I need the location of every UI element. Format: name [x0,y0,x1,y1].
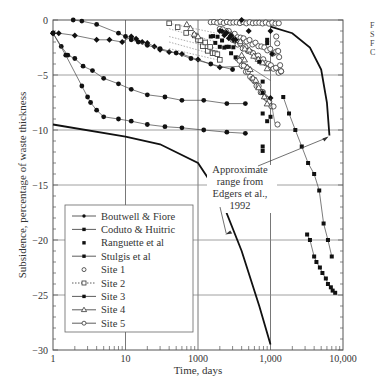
series-line [53,33,245,133]
filled-square-marker [213,41,217,45]
filled-diamond-marker [268,28,274,34]
filled-circle-marker [230,67,235,72]
filled-square-marker [261,80,265,84]
filled-circle-marker [94,22,99,27]
filled-square-marker [324,277,328,281]
legend-label: Site 5 [101,318,125,329]
filled-circle-marker [189,56,194,61]
x-tick-label: 1 [51,353,56,364]
filled-square-marker [312,172,316,176]
open-square-marker [167,21,172,26]
filled-circle-marker [180,98,185,103]
filled-circle-marker [79,84,84,89]
x-tick-label: 1000 [188,353,208,364]
filled-square-marker [218,45,222,49]
legend-label: Ranguette et al [101,237,164,248]
filled-circle-marker [129,119,134,124]
filled-circle-marker [72,56,77,61]
filled-square-marker [330,255,334,259]
x-tick-label: 1,000 [259,353,282,364]
series-line [307,235,335,293]
filled-diamond-marker [246,28,252,34]
filled-circle-marker [163,124,168,129]
caption-fragment: C [370,48,375,57]
filled-square-marker [269,115,273,119]
arrowhead-icon [322,137,328,142]
filled-circle-marker [79,19,84,24]
legend-marker-icon [82,295,85,298]
filled-diamond-marker [72,32,78,38]
y-tick-label: −20 [32,235,48,246]
x-tick-label: 10 [121,353,131,364]
legend-marker-icon [82,228,85,231]
legend-marker-icon [82,214,85,217]
open-circle-marker [274,34,279,39]
legend-marker-icon [82,268,86,272]
legend-label: Site 2 [101,278,125,289]
filled-circle-marker [88,100,93,105]
filled-square-marker [265,119,269,123]
filled-circle-marker [101,114,106,119]
filled-circle-marker [116,31,121,36]
filled-square-marker [227,45,231,49]
filled-square-marker [261,145,265,149]
filled-square-marker [317,189,321,193]
series-ranguette-et-al [305,233,337,295]
filled-circle-marker [180,125,185,130]
filled-square-marker [308,238,312,242]
open-square-marker [184,31,189,36]
filled-square-marker [305,233,309,237]
filled-square-marker [261,91,265,95]
filled-circle-marker [224,101,229,106]
filled-diamond-marker [94,37,100,43]
open-circle-marker [276,21,281,26]
legend: Boutwell & FioreCoduto & HuitricRanguett… [65,205,193,332]
filled-circle-marker [123,34,128,39]
filled-square-marker [265,41,269,45]
annotation-line: Edgers et al., [213,188,268,199]
open-circle-marker [275,41,280,46]
filled-circle-marker [101,76,106,81]
filled-square-marker [261,112,265,116]
filled-square-marker [318,266,322,270]
legend-marker-icon [82,255,85,258]
connector-line [271,98,275,123]
annotation-line: 1992 [230,200,251,211]
filled-square-marker [229,51,233,55]
edgers-annotation: Approximaterange fromEdgers et al.,1992 [207,137,328,235]
subsidence-chart: 11010001,00010,0000−5−10−15−20−25−30 App… [0,0,376,387]
filled-diamond-marker [217,64,223,70]
filled-circle-marker [129,37,134,42]
filled-circle-marker [224,130,229,135]
filled-circle-marker [81,64,86,69]
filled-square-marker [261,149,265,153]
y-axis-title: Subsidence, percentage of waste thicknes… [16,92,28,279]
open-circle-marker [237,58,242,63]
filled-circle-marker [145,122,150,127]
filled-square-marker [333,291,337,295]
y-tick-label: 0 [43,15,48,26]
filled-square-marker [306,161,310,165]
legend-marker-icon [82,241,85,244]
open-circle-marker [276,48,281,53]
filled-circle-marker [90,68,95,73]
filled-circle-marker [94,108,99,113]
series-stulgis-et-al [50,30,245,70]
filled-circle-marker [201,98,206,103]
filled-diamond-marker [119,39,125,45]
filled-square-marker [326,238,330,242]
filled-circle-marker [243,101,248,106]
series-line [53,33,242,67]
x-axis-title: Time, days [174,364,223,376]
filled-square-marker [312,255,316,259]
filled-diamond-marker [106,37,112,43]
filled-square-marker [320,271,324,275]
legend-marker-icon [82,281,86,285]
filled-square-marker [211,34,215,38]
legend-label: Boutwell & Fiore [101,211,175,222]
caption-fragment: F [370,39,375,48]
open-circle-marker [278,69,283,74]
legend-marker-icon [82,321,86,325]
filled-circle-marker [85,95,90,100]
open-square-marker [218,58,223,63]
